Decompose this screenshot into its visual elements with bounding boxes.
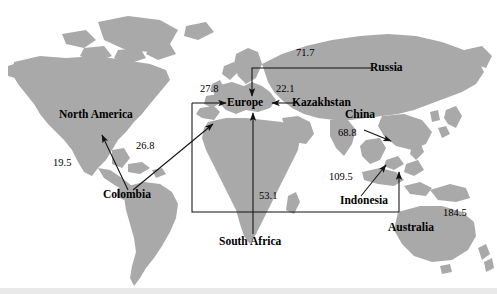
- flow-value-71-7: 71.7: [296, 48, 314, 59]
- flow-line-china-export: [364, 130, 391, 141]
- node-label-north-america: North America: [59, 109, 133, 121]
- node-label-south-africa: South Africa: [219, 236, 281, 248]
- node-label-russia: Russia: [370, 62, 403, 74]
- node-label-china: China: [345, 109, 375, 121]
- flow-arrow-overlay: [0, 0, 497, 294]
- flow-value-53-1: 53.1: [259, 191, 277, 202]
- flow-value-19-5: 19.5: [53, 158, 71, 169]
- flow-value-109-5: 109.5: [329, 172, 353, 183]
- node-label-australia: Australia: [388, 222, 434, 234]
- node-label-colombia: Colombia: [103, 189, 151, 201]
- flow-value-68-8: 68.8: [338, 128, 356, 139]
- figure-canvas: North America Colombia Europe Russia Kaz…: [0, 0, 497, 294]
- flow-value-184-5: 184.5: [443, 208, 467, 219]
- flow-value-27-8: 27.8: [200, 84, 218, 95]
- flow-line-colombia-to-north-america: [102, 135, 128, 190]
- flow-line-indonesia-export: [361, 165, 386, 196]
- node-label-europe: Europe: [227, 97, 263, 109]
- node-label-indonesia: Indonesia: [340, 195, 388, 207]
- node-label-kazakhstan: Kazakhstan: [292, 97, 351, 109]
- flow-line-colombia-to-europe: [133, 124, 213, 190]
- flow-value-26-8: 26.8: [136, 141, 154, 152]
- flow-line-russia-to-europe: [252, 68, 371, 96]
- flow-value-22-1: 22.1: [276, 84, 294, 95]
